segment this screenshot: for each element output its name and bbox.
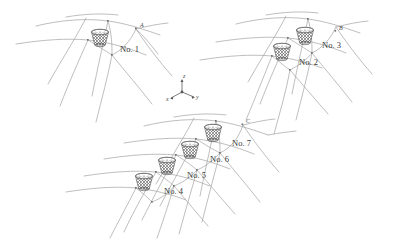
axis-label-x: x <box>165 96 169 102</box>
node-marker <box>335 30 337 32</box>
node-marker <box>135 28 137 30</box>
basket-label-no-3: No. 3 <box>322 40 341 50</box>
basket-label-no-4: No. 4 <box>164 186 184 196</box>
basket-no-5 <box>159 157 176 174</box>
basket-label-no-1: No. 1 <box>120 44 139 54</box>
lattice-network <box>16 12 372 238</box>
basket-label-no-6: No. 6 <box>210 154 229 164</box>
node-marker <box>195 138 197 140</box>
node-marker <box>289 69 291 71</box>
node-marker <box>155 171 157 173</box>
node-marker <box>271 55 273 57</box>
point-label-b: B <box>339 25 343 31</box>
axis-label-y: y <box>195 94 199 100</box>
group-top-right-lines <box>200 12 372 134</box>
node-marker <box>135 187 137 189</box>
group-bottom-lines <box>66 114 296 238</box>
node-marker <box>311 52 313 54</box>
basket-no-7 <box>205 124 222 141</box>
figure-canvas: A B C No. 1 No. 3 No. 2 No. 7 No. 6 No. … <box>0 0 397 240</box>
node-marker <box>111 54 113 56</box>
node-marker <box>287 37 289 39</box>
coordinate-axes-icon: z y x <box>165 73 199 102</box>
node-marker <box>307 18 309 20</box>
basket-label-no-7: No. 7 <box>232 138 251 148</box>
basket-label-no-2: No. 2 <box>299 57 318 67</box>
axis-label-z: z <box>182 73 186 79</box>
node-marker <box>151 201 153 203</box>
node-marker <box>107 20 109 22</box>
node-marker <box>215 120 217 122</box>
point-label-a: A <box>139 22 144 28</box>
diagram-svg: A B C No. 1 No. 3 No. 2 No. 7 No. 6 No. … <box>0 0 397 240</box>
node-marker <box>175 154 177 156</box>
node-marker <box>242 124 244 126</box>
point-label-c: C <box>246 118 251 124</box>
basket-label-no-5: No. 5 <box>187 170 206 180</box>
node-marker <box>87 39 89 41</box>
